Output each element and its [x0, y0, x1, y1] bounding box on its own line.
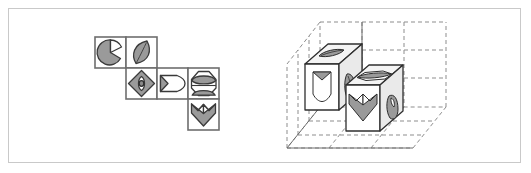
- isometric-scene-svg: [265, 0, 531, 173]
- figure-root: [0, 0, 531, 173]
- cube-right-side-glyph: [387, 95, 398, 119]
- isometric-scene-panel: [265, 0, 531, 173]
- glyph-bullet-arrow: [161, 76, 186, 92]
- cube-net-panel: [0, 0, 265, 173]
- cube-left-front-glyph: [313, 72, 331, 102]
- cube-net-svg: [0, 0, 265, 173]
- glyph-hexagon-with-arc: [192, 72, 217, 96]
